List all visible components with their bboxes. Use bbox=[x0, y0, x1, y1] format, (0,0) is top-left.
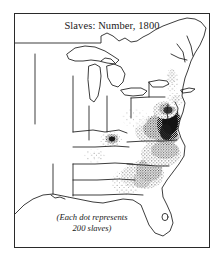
slave-population-map-figure: Slaves: Number, 1800 (Each dot represent… bbox=[0, 0, 224, 264]
map-title: Slaves: Number, 1800 bbox=[15, 20, 209, 31]
map-legend: (Each dot represents 200 slaves) bbox=[33, 212, 151, 234]
legend-line-1: (Each dot represents bbox=[33, 212, 151, 223]
legend-line-2: 200 slaves) bbox=[33, 223, 151, 234]
density-ohio-valley bbox=[122, 108, 148, 128]
map-frame: Slaves: Number, 1800 (Each dot represent… bbox=[14, 13, 210, 248]
